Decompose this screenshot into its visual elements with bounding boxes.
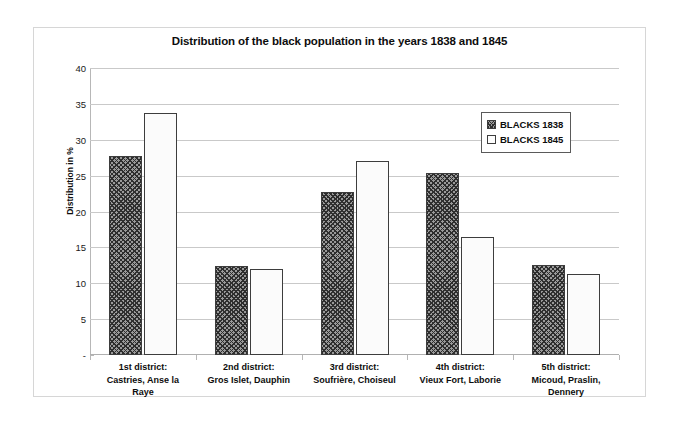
x-axis-category-label-line: 2nd district: [196, 361, 302, 374]
x-axis-category-label: 2nd district:Gros Islet, Dauphin [196, 361, 302, 386]
bar [461, 237, 494, 355]
x-axis-tick-mark [513, 355, 514, 360]
x-axis-tick-mark [302, 355, 303, 360]
x-axis-category-label: 3rd district:Soufrière, Choiseul [302, 361, 408, 386]
legend-swatch-1838-icon [487, 120, 496, 129]
x-axis-category-label-line: 3rd district: [302, 361, 408, 374]
bar [321, 192, 354, 355]
chart-title: Distribution of the black population in … [34, 35, 645, 47]
y-axis-tick-label: 25 [52, 170, 86, 181]
x-axis-category-label-line: Raye [90, 386, 196, 399]
x-axis-category-labels: 1st district:Castries, Anse laRaye2nd di… [90, 361, 619, 411]
bar [356, 161, 389, 355]
x-axis-tick-mark [90, 355, 91, 360]
bar [250, 269, 283, 355]
x-axis-category-label-line: Micoud, Praslin, [513, 374, 619, 387]
x-axis-category-label-line: 5th district: [513, 361, 619, 374]
bar [215, 266, 248, 355]
chart-container: Distribution of the black population in … [33, 27, 646, 397]
y-axis-tick-labels: -510152025303540 [44, 68, 86, 355]
x-axis-category-label-line: Gros Islet, Dauphin [196, 374, 302, 387]
x-axis-tick-mark [619, 355, 620, 360]
legend-swatch-1845-icon [487, 135, 496, 144]
x-axis-category-label-line: Vieux Fort, Laborie [407, 374, 513, 387]
legend-item: BLACKS 1838 [487, 117, 563, 132]
bar [532, 265, 565, 355]
x-axis-category-label-line: Soufrière, Choiseul [302, 374, 408, 387]
y-axis-tick-label: 40 [52, 63, 86, 74]
chart-legend: BLACKS 1838 BLACKS 1845 [481, 112, 571, 153]
y-axis-tick-label: - [52, 350, 86, 361]
bar [109, 156, 142, 355]
legend-label: BLACKS 1845 [500, 134, 563, 145]
x-axis-category-label-line: 4th district: [407, 361, 513, 374]
gridline [90, 104, 619, 105]
y-axis-tick-label: 15 [52, 242, 86, 253]
y-axis-tick-label: 35 [52, 98, 86, 109]
x-axis-category-label-line: Dennery [513, 386, 619, 399]
x-axis-tick-mark [407, 355, 408, 360]
bar [144, 113, 177, 355]
y-axis-tick-label: 20 [52, 206, 86, 217]
y-axis-tick-label: 30 [52, 134, 86, 145]
x-axis-category-label: 5th district:Micoud, Praslin,Dennery [513, 361, 619, 399]
legend-label: BLACKS 1838 [500, 119, 563, 130]
legend-item: BLACKS 1845 [487, 132, 563, 147]
x-axis-category-label-line: Castries, Anse la [90, 374, 196, 387]
x-axis-category-label: 4th district:Vieux Fort, Laborie [407, 361, 513, 386]
x-axis-tick-mark [196, 355, 197, 360]
bar [567, 274, 600, 355]
x-axis-category-label: 1st district:Castries, Anse laRaye [90, 361, 196, 399]
x-axis-category-label-line: 1st district: [90, 361, 196, 374]
bar [426, 173, 459, 355]
y-axis-tick-label: 5 [52, 314, 86, 325]
gridline [90, 68, 619, 69]
y-axis-tick-label: 10 [52, 278, 86, 289]
